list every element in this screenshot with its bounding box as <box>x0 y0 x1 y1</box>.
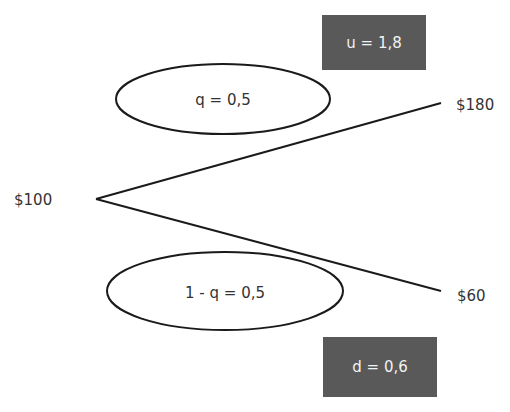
up-probability-label: q = 0,5 <box>195 91 250 109</box>
up-factor-label: u = 1,8 <box>346 34 401 52</box>
down-factor-box: d = 0,6 <box>323 337 437 397</box>
up-factor-box: u = 1,8 <box>322 15 426 70</box>
down-factor-label: d = 0,6 <box>352 358 407 376</box>
up-value-label: $180 <box>456 96 494 114</box>
down-probability-label: 1 - q = 0,5 <box>185 284 265 302</box>
down-value-label: $60 <box>457 287 486 305</box>
binomial-tree-diagram: q = 0,5 1 - q = 0,5 $100 $180 $60 u = 1,… <box>0 0 510 412</box>
root-value-label: $100 <box>14 191 52 209</box>
